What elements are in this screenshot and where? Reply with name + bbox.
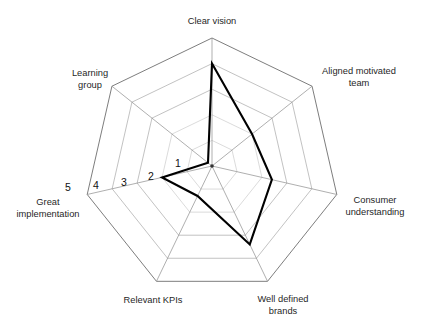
axis-label-line: Learning xyxy=(72,68,108,78)
radar-chart-container: 12345 Clear visionAligned motivatedteamC… xyxy=(0,0,424,334)
axis-label-line: Well defined xyxy=(258,294,309,304)
series-polygon-0 xyxy=(162,64,272,245)
axis-label-line: Clear vision xyxy=(188,16,237,26)
axis-label-3: Well definedbrands xyxy=(258,294,309,316)
axis-label-line: Great xyxy=(36,197,60,207)
radial-tick-label-5: 5 xyxy=(65,181,71,193)
axis-label-line: team xyxy=(349,78,370,88)
axis-spoke-4 xyxy=(156,166,212,281)
radial-tick-label-4: 4 xyxy=(93,179,99,191)
axis-label-6: Learninggroup xyxy=(72,68,108,90)
axis-spoke-1 xyxy=(212,86,312,166)
radar-chart-svg: 12345 Clear visionAligned motivatedteamC… xyxy=(0,0,424,334)
axis-label-0: Clear vision xyxy=(188,16,237,26)
radial-tick-labels-group: 12345 xyxy=(65,157,181,193)
radial-tick-label-3: 3 xyxy=(121,176,127,188)
axis-label-5: Greatimplementation xyxy=(16,197,79,219)
radial-tick-label-1: 1 xyxy=(175,157,181,169)
axis-label-line: implementation xyxy=(16,209,79,219)
axis-label-line: group xyxy=(78,80,102,90)
axis-label-line: Relevant KPIs xyxy=(124,295,183,305)
axis-spoke-3 xyxy=(212,166,268,281)
axis-label-1: Aligned motivatedteam xyxy=(322,66,396,88)
axis-spoke-2 xyxy=(212,166,337,194)
axis-spoke-6 xyxy=(112,86,212,166)
data-series-group xyxy=(162,64,272,245)
axis-label-line: brands xyxy=(269,306,298,316)
axis-label-line: understanding xyxy=(346,207,405,217)
axis-label-line: Aligned motivated xyxy=(322,66,396,76)
axis-label-4: Relevant KPIs xyxy=(124,295,183,305)
radial-tick-label-2: 2 xyxy=(148,170,154,182)
axis-label-2: Consumerunderstanding xyxy=(346,195,405,217)
axis-label-line: Consumer xyxy=(354,195,397,205)
chart-center-dot xyxy=(210,164,214,168)
